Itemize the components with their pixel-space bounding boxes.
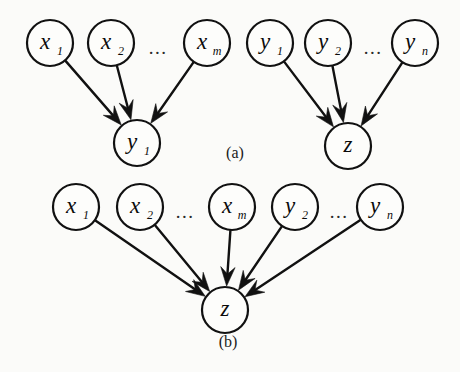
node-subscript-label: 1 xyxy=(277,44,283,58)
node-subscript-label: n xyxy=(422,44,428,58)
node-subscript-label: n xyxy=(387,208,393,222)
graph-node[interactable]: x1 xyxy=(27,20,73,66)
ellipsis-label: ... xyxy=(330,201,349,222)
figure-container: x1x2xmy1y2yny1zx1x2xmy2ynz ............ … xyxy=(0,0,460,372)
node-base-label: y xyxy=(368,193,381,218)
graph-node[interactable]: z xyxy=(202,287,248,333)
panel-label-panel-a: (a) xyxy=(226,144,244,162)
node-subscript-label: m xyxy=(213,44,222,58)
node-base-label: x xyxy=(65,193,77,218)
nodes-layer: x1x2xmy1y2yny1zx1x2xmy2ynz xyxy=(27,20,438,333)
edge-shaft xyxy=(227,231,230,277)
edge-arrowhead xyxy=(316,107,333,127)
graph-edge xyxy=(238,227,281,290)
graph-canvas: x1x2xmy1y2yny1zx1x2xmy2ynz ............ … xyxy=(0,0,460,372)
node-base-label: x xyxy=(100,29,112,54)
edge-shaft xyxy=(244,227,282,283)
node-subscript-label: 1 xyxy=(144,144,150,158)
graph-node[interactable]: x1 xyxy=(53,184,99,230)
node-subscript-label: 2 xyxy=(302,208,308,222)
graph-node[interactable]: z xyxy=(325,123,371,169)
node-base-label: z xyxy=(343,132,353,157)
graph-node[interactable]: xm xyxy=(209,184,255,230)
graph-edge xyxy=(221,231,235,286)
node-subscript-label: 2 xyxy=(118,44,124,58)
edge-shaft xyxy=(117,66,129,111)
panel-label-panel-b: (b) xyxy=(219,333,238,351)
node-base-label: x xyxy=(196,29,208,54)
ellipsis-label: ... xyxy=(149,37,168,58)
graph-node[interactable]: xm xyxy=(184,20,230,66)
node-base-label: y xyxy=(125,129,138,154)
graph-node[interactable]: y1 xyxy=(247,20,293,66)
edge-shaft xyxy=(284,62,328,120)
graph-node[interactable]: y1 xyxy=(114,120,160,166)
edge-shaft xyxy=(66,61,116,118)
node-subscript-label: m xyxy=(238,208,247,222)
node-base-label: y xyxy=(283,193,296,218)
graph-edge xyxy=(361,63,402,126)
graph-edge xyxy=(284,62,333,127)
graph-edge xyxy=(151,63,193,124)
edges-layer xyxy=(66,61,402,297)
node-base-label: y xyxy=(258,29,271,54)
graph-edge xyxy=(333,67,347,123)
graph-node[interactable]: x2 xyxy=(88,20,134,66)
edge-shaft xyxy=(156,63,193,116)
node-base-label: x xyxy=(221,193,233,218)
node-base-label: y xyxy=(403,29,416,54)
node-subscript-label: 2 xyxy=(335,44,341,58)
ellipsis-label: ... xyxy=(176,201,195,222)
edge-shaft xyxy=(96,221,198,292)
graph-edge xyxy=(96,221,206,297)
edge-arrowhead xyxy=(151,104,168,124)
node-base-label: x xyxy=(129,193,141,218)
graph-edge xyxy=(66,61,121,125)
graph-node[interactable]: yn xyxy=(392,20,438,66)
node-subscript-label: 2 xyxy=(147,208,153,222)
graph-node[interactable]: y2 xyxy=(272,184,318,230)
edge-arrowhead xyxy=(361,106,377,126)
node-base-label: z xyxy=(220,296,230,321)
graph-node[interactable]: x2 xyxy=(117,184,163,230)
graph-edge xyxy=(117,66,133,120)
graph-edge xyxy=(245,220,360,296)
graph-node[interactable]: yn xyxy=(357,184,403,230)
node-subscript-label: 1 xyxy=(83,208,89,222)
node-base-label: x xyxy=(39,29,51,54)
graph-node[interactable]: y2 xyxy=(305,20,351,66)
node-subscript-label: 1 xyxy=(57,44,63,58)
ellipsis-label: ... xyxy=(364,37,383,58)
edge-shaft xyxy=(252,220,360,291)
edge-shaft xyxy=(366,63,402,118)
node-base-label: y xyxy=(316,29,329,54)
edge-shaft xyxy=(155,226,204,285)
